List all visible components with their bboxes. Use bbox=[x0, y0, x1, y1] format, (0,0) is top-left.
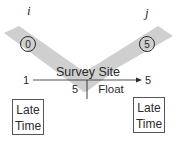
activity-name: Survey Site bbox=[56, 65, 120, 79]
late-time-box-right: Late Time bbox=[133, 97, 165, 133]
early-finish-value: 5 bbox=[145, 74, 151, 86]
early-start-value: 1 bbox=[23, 74, 29, 86]
duration-value: 5 bbox=[72, 83, 78, 95]
float-label: Float bbox=[98, 83, 124, 95]
node-label-j: j bbox=[143, 5, 149, 20]
late-time-box-left: Late Time bbox=[12, 99, 44, 135]
arrow-head-icon bbox=[136, 78, 142, 83]
event-number-end: 5 bbox=[144, 39, 150, 50]
late-time-right-line1: Late bbox=[134, 100, 164, 116]
late-time-left-line1: Late bbox=[13, 102, 43, 118]
node-label-i: i bbox=[27, 3, 31, 18]
event-number-start: 0 bbox=[25, 39, 31, 50]
late-time-right-line2: Time bbox=[134, 116, 164, 132]
late-time-left-line2: Time bbox=[13, 118, 43, 134]
